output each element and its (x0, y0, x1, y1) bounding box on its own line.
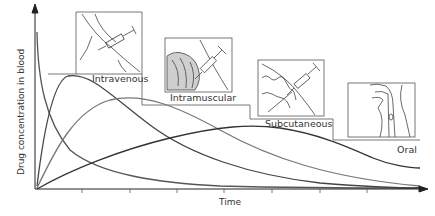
curve-oral (37, 126, 420, 189)
oral-illustration (370, 84, 410, 137)
subcutaneous-illustration (262, 63, 320, 115)
label-intramuscular: Intramuscular (170, 92, 236, 103)
label-oral: Oral (397, 144, 417, 155)
y-axis-label: Drug concentration in blood (16, 49, 26, 175)
y-axis-arrow-icon (32, 4, 38, 13)
x-axis-arrow-icon (419, 186, 428, 192)
curve-intravenous (37, 32, 420, 188)
x-ticks (82, 189, 367, 193)
x-axis-label: Time (218, 197, 241, 207)
label-intravenous: Intravenous (92, 73, 149, 84)
curves (37, 32, 420, 189)
drug-concentration-diagram: Intravenous Intramuscular Subcutaneous O… (0, 0, 435, 216)
intramuscular-illustration (167, 40, 228, 90)
intravenous-illustration (80, 14, 140, 72)
curve-subcutaneous (37, 98, 420, 188)
